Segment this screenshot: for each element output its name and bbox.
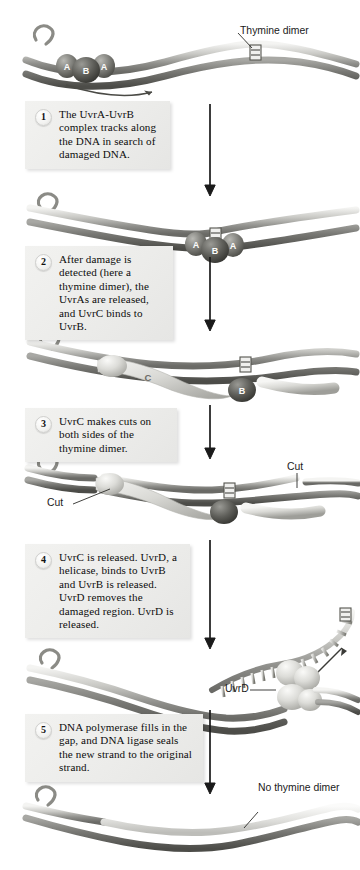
step-number-4: 4 (35, 552, 52, 569)
thymine-dimer-mark-4 (224, 483, 235, 498)
step-box-5: 5 DNA polymerase fills in the gap, and D… (25, 714, 203, 782)
step-box-1: 1 The UvrA-UvrB complex tracks along the… (25, 101, 170, 169)
step-text-1: The UvrA-UvrB complex tracks along the D… (59, 108, 162, 162)
step-number-1: 1 (35, 109, 52, 126)
svg-text:A: A (193, 240, 200, 250)
svg-text:B: B (239, 386, 246, 396)
step-number-3: 3 (35, 416, 52, 433)
thymine-dimer-mark-5 (340, 608, 351, 621)
step-text-4: UvrC is released. UvrD, a helicase, bind… (59, 551, 182, 631)
step-box-2: 2 After damage is detected (here a thymi… (25, 246, 173, 340)
flow-arrow-1 (205, 104, 215, 196)
svg-text:B: B (212, 246, 219, 256)
svg-text:A: A (64, 62, 71, 72)
step-box-3: 3 UvrC makes cuts on both sides of the t… (25, 408, 177, 462)
thymine-dimer-label: Thymine dimer (240, 25, 309, 36)
step-number-2: 2 (35, 254, 52, 271)
svg-text:A: A (101, 62, 108, 72)
svg-text:C: C (145, 372, 152, 383)
step-text-3: UvrC makes cuts on both sides of the thy… (59, 415, 169, 455)
step-text-5: DNA polymerase fills in the gap, and DNA… (59, 721, 195, 775)
step-box-4: 4 UvrC is released. UvrD, a helicase, bi… (25, 544, 190, 638)
dna-panel-3: C B (30, 331, 356, 402)
uvrd-protein (276, 660, 322, 711)
cut-right-label: Cut (287, 461, 303, 472)
uvrb-protein-3: B (228, 378, 256, 402)
dna-panel-4 (28, 455, 358, 524)
dna-panel-6 (26, 787, 358, 849)
svg-text:B: B (83, 66, 90, 76)
uvrd-label: UvrD (225, 683, 249, 694)
step-text-2: After damage is detected (here a thymine… (59, 253, 165, 333)
uvrab-complex-1: A A B (56, 54, 115, 83)
thymine-dimer-mark-3 (240, 357, 251, 372)
flow-arrow-5 (205, 710, 215, 794)
step-number-5: 5 (35, 722, 52, 739)
no-thymine-dimer-label: No thymine dimer (258, 782, 339, 793)
dna-panel-1: A A B (26, 26, 356, 96)
nucleotide-excision-repair-figure: A A B (0, 0, 360, 870)
flow-arrow-4 (205, 540, 215, 649)
cut-left-label: Cut (47, 497, 63, 508)
flow-arrow-2 (205, 257, 215, 331)
flow-arrow-3 (205, 405, 215, 459)
svg-text:A: A (230, 241, 237, 251)
